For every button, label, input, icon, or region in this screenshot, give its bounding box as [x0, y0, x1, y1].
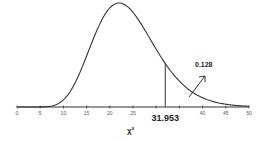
x-tick-label: 10 — [61, 110, 67, 116]
x-axis-label: χ² — [127, 126, 135, 135]
critical-value-label: 31.953 — [151, 113, 179, 123]
x-tick-label: 20 — [107, 110, 113, 116]
x-tick-label: 15 — [84, 110, 90, 116]
density-curve — [17, 3, 249, 107]
chi-square-chart: 0510152025404550 31.953 0.128 χ² — [0, 0, 265, 141]
x-tick-label: 40 — [200, 110, 206, 116]
tail-probability-label: 0.128 — [195, 61, 213, 68]
x-tick-label: 0 — [16, 110, 19, 116]
x-tick-label: 50 — [246, 110, 252, 116]
x-tick-label: 45 — [223, 110, 229, 116]
x-tick-label: 25 — [130, 110, 136, 116]
x-tick-label: 5 — [39, 110, 42, 116]
arrow-icon — [189, 76, 205, 97]
